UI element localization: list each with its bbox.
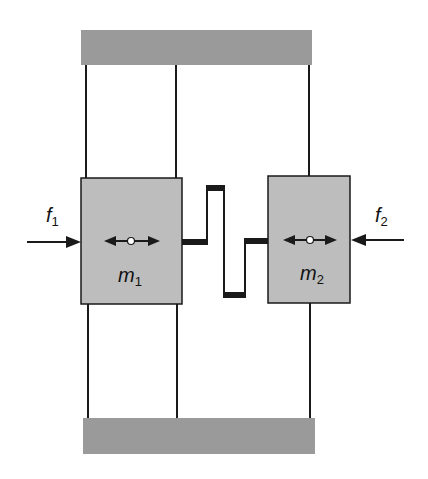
bottom-wall	[83, 418, 315, 454]
force-f1: f1	[27, 204, 81, 248]
force-f2: f2	[351, 204, 404, 246]
arrow-right-icon	[66, 236, 81, 248]
pivot-icon	[128, 238, 135, 245]
mass-1: m1	[81, 178, 182, 304]
spring	[182, 188, 268, 295]
force-f2-label: f2	[375, 204, 388, 229]
arrow-left-icon	[351, 234, 366, 246]
force-f1-label: f1	[46, 204, 59, 229]
mass-2: m2	[268, 176, 350, 303]
top-wall	[81, 30, 312, 65]
pivot-icon	[307, 237, 314, 244]
two-mass-spring-diagram: m1 m2 f1 f2	[0, 0, 428, 479]
